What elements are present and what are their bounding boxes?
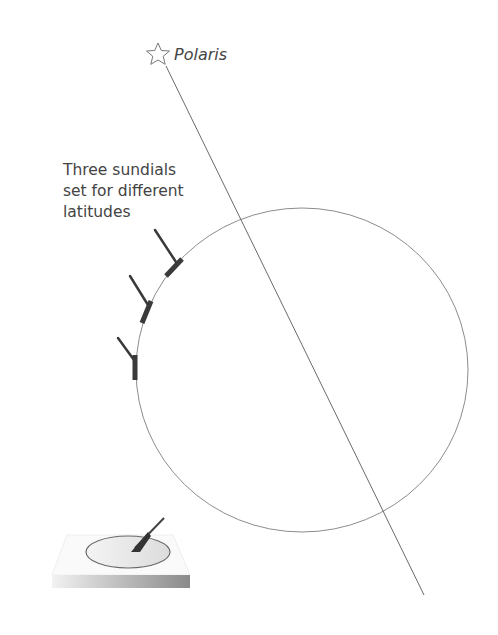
caption-line-2: set for different	[63, 181, 203, 202]
polaris-label: Polaris	[174, 45, 227, 64]
earth-circle	[136, 208, 468, 532]
sundial-3-gnomon	[118, 338, 134, 360]
sundial-1-plate	[166, 259, 182, 276]
caption-line-1: Three sundials	[63, 160, 203, 181]
sundial-dial-face	[86, 536, 170, 568]
caption-line-3: latitudes	[63, 202, 203, 223]
sundial-3	[118, 338, 135, 380]
sundial-illustration	[52, 518, 190, 588]
sundials-caption: Three sundials set for different latitud…	[63, 160, 203, 223]
sundial-1-gnomon	[155, 230, 176, 262]
polaris-sundial-diagram	[0, 0, 498, 635]
sundial-1	[155, 230, 182, 276]
earth-axis-line	[166, 66, 424, 595]
sundial-2	[130, 276, 151, 323]
sundial-base-side	[52, 575, 190, 588]
star-icon	[147, 43, 170, 64]
sundial-2-gnomon	[130, 276, 148, 305]
